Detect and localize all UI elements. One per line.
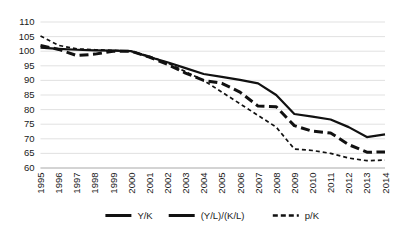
- x-axis-tick-label: 2009: [289, 173, 300, 194]
- x-axis-tick-label: 2000: [126, 173, 137, 194]
- y-axis-tick-label: 95: [24, 60, 35, 71]
- x-axis-tick-label: 1999: [108, 173, 119, 194]
- legend-label-3: p/K: [305, 210, 320, 221]
- y-axis-tick-label: 80: [24, 104, 35, 115]
- x-axis-tick-label: 2002: [162, 173, 173, 194]
- x-axis-tick-label: 2010: [307, 173, 318, 194]
- chart-canvas: 6065707580859095100105110 19951996199719…: [0, 0, 399, 235]
- x-axis-tick-label: 1995: [35, 173, 46, 194]
- chart-legend: Y/K(Y/L)/(K/L)p/K: [105, 210, 319, 221]
- y-axis-tick-label: 90: [24, 74, 35, 85]
- y-axis-tick-label: 105: [19, 31, 35, 42]
- x-axis-tick-labels: 1995199619971998199920002001200220032004…: [35, 173, 391, 194]
- y-axis-tick-label: 85: [24, 89, 35, 100]
- series-line-1: [41, 48, 386, 137]
- series-line-2: [41, 45, 386, 152]
- x-axis-tick-label: 1996: [53, 173, 64, 194]
- y-axis-tick-label: 110: [19, 16, 34, 27]
- x-axis-tick-label: 2005: [216, 173, 227, 194]
- y-axis-tick-label: 70: [24, 133, 35, 144]
- x-axis-tick-label: 2014: [380, 173, 391, 194]
- x-axis-tick-label: 1998: [89, 173, 100, 194]
- x-axis-tick-label: 2006: [235, 173, 246, 194]
- y-axis-tick-label: 65: [24, 147, 35, 158]
- x-axis-tick-label: 2011: [325, 173, 336, 193]
- legend-label-1: Y/K: [137, 210, 153, 221]
- series-line-3: [41, 36, 386, 161]
- gridlines: [41, 22, 386, 168]
- plot-area: 6065707580859095100105110 19951996199719…: [0, 0, 399, 235]
- x-axis-tick-label: 2007: [253, 173, 264, 194]
- y-axis-tick-labels: 6065707580859095100105110: [19, 16, 35, 173]
- x-axis-tick-label: 2004: [198, 173, 209, 194]
- x-axis-tick-label: 2003: [180, 173, 191, 194]
- x-axis-tick-label: 2013: [361, 173, 372, 194]
- y-axis-tick-label: 100: [19, 45, 35, 56]
- y-axis-tick-label: 60: [24, 162, 35, 173]
- legend-label-2: (Y/L)/(K/L): [201, 210, 245, 221]
- line-chart: 6065707580859095100105110 19951996199719…: [0, 0, 399, 235]
- x-axis-tick-label: 2012: [343, 173, 354, 194]
- data-series-group: [41, 36, 386, 161]
- x-axis-tick-label: 2001: [144, 173, 155, 194]
- x-axis-tick-label: 2008: [271, 173, 282, 194]
- x-axis-tick-label: 1997: [71, 173, 82, 194]
- y-axis-tick-label: 75: [24, 118, 35, 129]
